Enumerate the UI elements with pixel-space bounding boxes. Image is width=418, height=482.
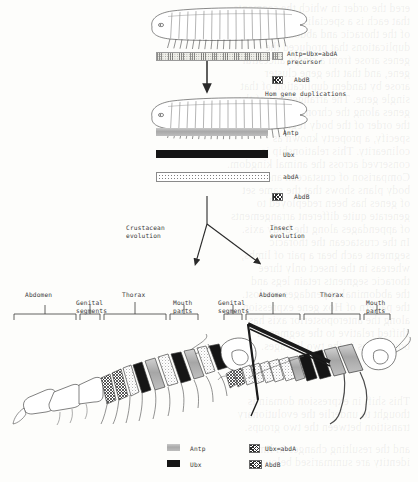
right-region-label-genital-line2: segments <box>218 307 249 315</box>
legend-label-ubx-abda: Ubx=abdA <box>265 445 296 453</box>
legend-swatch-ubx-abda <box>249 444 260 453</box>
insect-evolution-label-line1: Insect <box>270 224 293 232</box>
ghost-line: transition between the two groups. <box>8 421 410 433</box>
ghost-line: of the thoracic and abdominal <box>8 28 410 40</box>
right-region-label-genital-line1: Genital <box>218 299 245 307</box>
ghost-line: thoracic segments retain legs and <box>8 275 410 287</box>
right-region-label-mouth-line1: Mouth <box>366 299 385 307</box>
left-region-label-mouth-line2: parts <box>173 307 192 315</box>
gene-bar-antp <box>156 128 268 136</box>
legend-label-ubx: Ubx <box>190 461 202 469</box>
ghost-line: that each is a specialised cluster <box>8 15 410 27</box>
page-bleed-through-text: ered the order in which the segments tha… <box>0 0 418 482</box>
abdb-swatch-middle <box>272 193 283 201</box>
ghost-line: gene, and that the gene cluster <box>8 67 410 79</box>
legend-swatch-ubx <box>167 460 180 467</box>
left-region-label-thorax: Thorax <box>122 291 145 299</box>
ghost-line: conserved across the animal kingdom. <box>8 158 410 170</box>
left-region-label-genital-line2: segments <box>76 307 107 315</box>
ghost-line: generate quite different arrangements <box>8 210 410 222</box>
ghost-line: segments each bear a pair of limbs, <box>8 249 410 261</box>
ghost-line: thought to underlie the evolutionary <box>8 408 410 420</box>
insect-illustration <box>218 324 410 424</box>
ghost-line: body plans shows that the same set <box>8 184 410 196</box>
ghost-line: In the crustacean the thoracic <box>8 236 410 248</box>
top-organism-myriapod <box>152 8 307 49</box>
precursor-label-line2: precursor <box>287 58 322 66</box>
ghost-line: ered the order in which the segments <box>8 2 410 14</box>
crustacean-evolution-label-line1: Crustacean <box>126 224 165 232</box>
left-region-label-abdomen: Abdomen <box>25 291 52 299</box>
figure-line-art <box>0 0 418 482</box>
left-region-label-genital-line1: Genital <box>76 299 103 307</box>
ghost-line: identity are summarised below. <box>8 456 410 468</box>
ghost-line: This shift in expression domain is <box>8 395 410 407</box>
legend-label-antp: Antp <box>190 445 206 453</box>
branch-arrow-right <box>207 224 258 262</box>
crustacean-evolution-label-line2: evolution <box>126 232 161 240</box>
precursor-label-line1: Antp=Ubx=abdA <box>287 50 337 58</box>
ghost-line: shifted relative to the segmental <box>8 327 410 339</box>
crustacean-illustration <box>13 334 256 425</box>
left-region-label-mouth-line1: Mouth <box>173 299 192 307</box>
ghost-line: arose by tandem duplication of that <box>8 80 410 92</box>
divergence-split <box>196 196 258 262</box>
legend-swatch-abdb <box>249 460 262 469</box>
ghost-line: boundaries in the two lineages. <box>8 340 410 352</box>
precursor-gene-bar <box>156 52 270 61</box>
gene-bar-ubx <box>156 150 268 158</box>
abdb-swatch-top <box>272 76 283 84</box>
legend-swatch-antp <box>167 444 180 451</box>
abdb-label-top: AbdB <box>294 76 310 84</box>
branch-arrow-left <box>196 224 207 262</box>
figure-page: ered the order in which the segments tha… <box>0 0 418 482</box>
ghost-line: the pattern of Hox gene expression <box>8 301 410 313</box>
abdb-label-middle: AbdB <box>294 193 310 201</box>
precursor-legend-swatch <box>272 52 283 60</box>
right-region-label-thorax: Thorax <box>320 291 343 299</box>
ghost-line: along the anteroposterior axis has <box>8 314 410 326</box>
ghost-line: and the resulting changes in limb <box>8 443 410 455</box>
ghost-line: genes along the chromosome reflects <box>8 106 410 118</box>
gene-label-abda: abdA <box>283 173 299 181</box>
insect-evolution-label-line2: evolution <box>270 232 305 240</box>
gene-label-antp: Antp <box>283 129 299 137</box>
ghost-line: whereas in the insect only three <box>8 262 410 274</box>
right-region-label-abdomen: Abdomen <box>259 291 286 299</box>
right-region-label-mouth-line2: parts <box>366 307 385 315</box>
duplication-label: Hom gene duplications <box>265 90 346 98</box>
gene-label-ubx: Ubx <box>283 151 295 159</box>
ghost-line: of genes has been redeployed to <box>8 197 410 209</box>
gene-bar-abda <box>156 172 270 182</box>
ghost-line: the abdominal appendages are lost. <box>8 288 410 300</box>
ghost-line: single gene. The arrangement of the <box>8 93 410 105</box>
legend-label-abdb: AbdB <box>265 461 281 469</box>
ghost-line: of appendages along the body axis. <box>8 223 410 235</box>
